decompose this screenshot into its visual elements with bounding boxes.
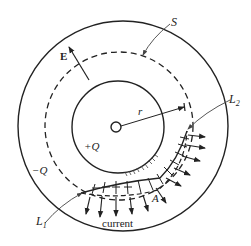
label-radius-r: r bbox=[138, 105, 143, 117]
loop-l1-leader-line bbox=[45, 193, 82, 223]
coaxial-capacitor-diagram: S E r +Q −Q L2 L1 A current bbox=[0, 0, 251, 246]
electric-field-arrow bbox=[69, 47, 89, 80]
label-inner-charge: +Q bbox=[84, 140, 99, 152]
strip-crossing-ticks bbox=[92, 137, 189, 194]
radius-arrow bbox=[121, 107, 184, 126]
inner-conductor-circle bbox=[72, 81, 164, 173]
current-arrows bbox=[86, 135, 205, 217]
label-current: current bbox=[102, 217, 133, 229]
strip-crossbars bbox=[92, 187, 132, 188]
label-area-a: A bbox=[151, 192, 159, 204]
surface-leader-line bbox=[143, 24, 170, 55]
label-field-e: E bbox=[60, 50, 67, 62]
radius-tick bbox=[184, 103, 185, 111]
label-outer-charge: −Q bbox=[32, 164, 47, 176]
label-surface-s: S bbox=[171, 15, 177, 29]
label-loop-l2: L2 bbox=[228, 92, 240, 108]
loop-l2-leader-line bbox=[188, 100, 230, 129]
inner-surface-hatching bbox=[125, 155, 158, 176]
label-loop-l1: L1 bbox=[35, 214, 47, 230]
gaussian-surface-dashed-circle bbox=[45, 52, 193, 200]
core-circle bbox=[111, 122, 121, 132]
